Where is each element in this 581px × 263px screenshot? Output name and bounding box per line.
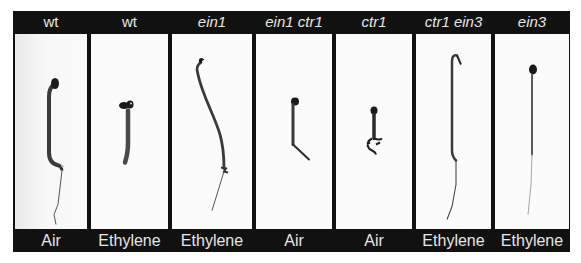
- seedling-image: [172, 34, 252, 229]
- panel-ein3-ethylene: ein3 Ethylene: [495, 11, 569, 252]
- seedling-photo: [416, 34, 491, 229]
- genotype-label: ctr1: [336, 11, 412, 33]
- seedling-image: [91, 34, 168, 229]
- seedling-image: [495, 34, 569, 229]
- condition-label: Air: [15, 229, 87, 252]
- figure-frame: wt Air wt Ethylene ein1: [13, 11, 570, 252]
- condition-label: Air: [336, 229, 412, 252]
- seedling-image: [15, 34, 87, 229]
- condition-label: Ethylene: [416, 229, 491, 252]
- seedling-image: [336, 34, 412, 229]
- genotype-label: ein1: [172, 11, 252, 33]
- seedling-photo: [172, 34, 252, 229]
- panel-wt-ethylene: wt Ethylene: [91, 11, 168, 252]
- seedling-photo: [91, 34, 168, 229]
- condition-label: Ethylene: [495, 229, 569, 252]
- panel-ein1-ctr1-air: ein1 ctr1 Air: [256, 11, 332, 252]
- panel-ctr1-air: ctr1 Air: [336, 11, 412, 252]
- seedling-photo: [15, 34, 87, 229]
- seedling-photo: [495, 34, 569, 229]
- genotype-label: ein3: [495, 11, 569, 33]
- genotype-label: wt: [91, 11, 168, 33]
- genotype-label: ctr1 ein3: [416, 11, 491, 33]
- seedling-photo: [336, 34, 412, 229]
- panel-ctr1-ein3-ethylene: ctr1 ein3 Ethylene: [416, 11, 491, 252]
- panel-wt-air: wt Air: [15, 11, 87, 252]
- condition-label: Air: [256, 229, 332, 252]
- condition-label: Ethylene: [172, 229, 252, 252]
- panel-ein1-ethylene: ein1 Ethylene: [172, 11, 252, 252]
- genotype-label: wt: [15, 11, 87, 33]
- genotype-label: ein1 ctr1: [256, 11, 332, 33]
- seedling-photo: [256, 34, 332, 229]
- condition-label: Ethylene: [91, 229, 168, 252]
- seedling-image: [416, 34, 491, 229]
- seedling-image: [256, 34, 332, 229]
